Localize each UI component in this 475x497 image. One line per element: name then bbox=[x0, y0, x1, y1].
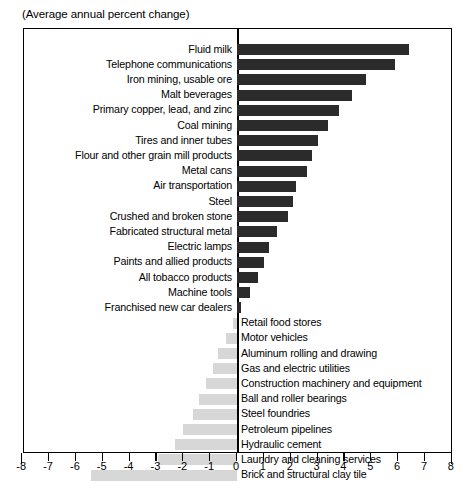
bar bbox=[237, 105, 339, 116]
axis-tick-label: -2 bbox=[177, 460, 187, 472]
bar-label: Fabricated structural metal bbox=[110, 226, 232, 237]
bar-row: Hydraulic cement bbox=[24, 437, 451, 452]
bar bbox=[237, 196, 293, 207]
bar-label: Machine tools bbox=[168, 287, 232, 298]
bar bbox=[237, 74, 366, 85]
bar bbox=[237, 226, 277, 237]
bar-row: Steel foundries bbox=[24, 407, 451, 422]
plot-area: Fluid milkTelephone communicationsIron m… bbox=[23, 28, 452, 453]
bar bbox=[237, 120, 328, 131]
bar-label: Petroleum pipelines bbox=[241, 424, 332, 435]
bar-row: Air transportation bbox=[24, 179, 451, 194]
bar bbox=[237, 257, 264, 268]
bar bbox=[237, 287, 250, 298]
bar-row: Fabricated structural metal bbox=[24, 224, 451, 239]
bar-label: Aluminum rolling and drawing bbox=[241, 348, 377, 359]
bar-row: Iron mining, usable ore bbox=[24, 72, 451, 87]
bar bbox=[237, 242, 269, 253]
bar-row: Fluid milk bbox=[24, 42, 451, 57]
bar bbox=[213, 363, 237, 374]
bar-label: Franchised new car dealers bbox=[105, 302, 232, 313]
bar bbox=[199, 394, 237, 405]
axis-tick-label: 4 bbox=[340, 460, 346, 472]
bar bbox=[237, 272, 258, 283]
bar-row: Machine tools bbox=[24, 285, 451, 300]
bar-label: Retail food stores bbox=[241, 317, 321, 328]
bar-label: All tobacco products bbox=[139, 272, 232, 283]
bar-row: Ball and roller bearings bbox=[24, 392, 451, 407]
bar bbox=[175, 439, 237, 450]
bar-row: Primary copper, lead, and zinc bbox=[24, 103, 451, 118]
axis-tick-label: -1 bbox=[204, 460, 214, 472]
bar bbox=[237, 150, 312, 161]
bar-row: Telephone communications bbox=[24, 57, 451, 72]
bar-row: All tobacco products bbox=[24, 270, 451, 285]
bar-row: Metal cans bbox=[24, 164, 451, 179]
axis-tick-label: 3 bbox=[313, 460, 319, 472]
bar-label: Tires and inner tubes bbox=[135, 135, 232, 146]
bar bbox=[183, 424, 237, 435]
chart-subtitle: (Average annual percent change) bbox=[22, 8, 189, 20]
axis-tick-label: 2 bbox=[287, 460, 293, 472]
bar-label: Motor vehicles bbox=[241, 332, 308, 343]
bar-row: Steel bbox=[24, 194, 451, 209]
bar-label: Gas and electric utilities bbox=[241, 363, 350, 374]
axis-tick-label: -7 bbox=[43, 460, 53, 472]
bar-label: Electric lamps bbox=[168, 241, 232, 252]
axis-tick-label: 0 bbox=[233, 460, 239, 472]
bar-row: Flour and other grain mill products bbox=[24, 148, 451, 163]
bar bbox=[237, 181, 296, 192]
axis-tick-label: 1 bbox=[260, 460, 266, 472]
bar-row: Franchised new car dealers bbox=[24, 300, 451, 315]
chart-container: (Average annual percent change) Fluid mi… bbox=[0, 0, 475, 497]
bar-row: Crushed and broken stone bbox=[24, 209, 451, 224]
bar-label: Malt beverages bbox=[161, 89, 232, 100]
bar-rows: Fluid milkTelephone communicationsIron m… bbox=[24, 29, 451, 452]
bar-label: Construction machinery and equipment bbox=[241, 378, 422, 389]
bar bbox=[218, 348, 237, 359]
bar-row: Petroleum pipelines bbox=[24, 422, 451, 437]
bar bbox=[237, 211, 288, 222]
bar bbox=[237, 302, 241, 313]
bar-label: Flour and other grain mill products bbox=[75, 150, 232, 161]
bar-row: Motor vehicles bbox=[24, 331, 451, 346]
axis-tick-label: 8 bbox=[448, 460, 454, 472]
bar-label: Metal cans bbox=[182, 165, 232, 176]
bar-label: Hydraulic cement bbox=[241, 439, 321, 450]
axis-tick-label: 6 bbox=[394, 460, 400, 472]
x-axis-tick-labels: -8-7-6-5-4-3-2-1012345678 bbox=[0, 460, 475, 480]
bar-label: Coal mining bbox=[177, 120, 232, 131]
bar bbox=[237, 135, 318, 146]
bar-row: Paints and allied products bbox=[24, 255, 451, 270]
bar bbox=[206, 378, 237, 389]
bar-row: Tires and inner tubes bbox=[24, 133, 451, 148]
axis-tick-label: -5 bbox=[97, 460, 107, 472]
bar bbox=[233, 318, 237, 329]
bar bbox=[226, 333, 237, 344]
bar-label: Steel bbox=[208, 196, 232, 207]
bar-label: Air transportation bbox=[153, 180, 232, 191]
bar bbox=[237, 59, 395, 70]
axis-tick-label: 7 bbox=[421, 460, 427, 472]
bar-label: Fluid milk bbox=[188, 44, 232, 55]
axis-tick-label: 5 bbox=[367, 460, 373, 472]
axis-tick-label: -6 bbox=[70, 460, 80, 472]
bar-label: Ball and roller bearings bbox=[241, 393, 347, 404]
bar-row: Aluminum rolling and drawing bbox=[24, 346, 451, 361]
bar-row: Malt beverages bbox=[24, 88, 451, 103]
bar-row: Gas and electric utilities bbox=[24, 361, 451, 376]
axis-tick-label: -3 bbox=[151, 460, 161, 472]
bar bbox=[237, 44, 409, 55]
bar-row: Coal mining bbox=[24, 118, 451, 133]
bar-row: Construction machinery and equipment bbox=[24, 376, 451, 391]
bar-label: Steel foundries bbox=[241, 408, 310, 419]
bar-label: Telephone communications bbox=[106, 59, 232, 70]
axis-tick-label: -8 bbox=[16, 460, 26, 472]
axis-tick-label: -4 bbox=[124, 460, 134, 472]
bar bbox=[193, 409, 237, 420]
bar-label: Paints and allied products bbox=[114, 256, 233, 267]
bar-label: Iron mining, usable ore bbox=[127, 74, 232, 85]
bar-label: Crushed and broken stone bbox=[110, 211, 232, 222]
bar-row: Electric lamps bbox=[24, 240, 451, 255]
bar bbox=[237, 90, 352, 101]
